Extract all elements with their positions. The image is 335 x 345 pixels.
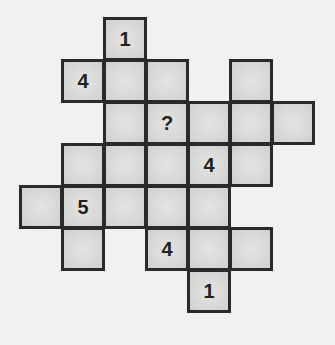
empty-cell[interactable] [103,185,147,229]
empty-cell[interactable] [187,101,231,145]
numbered-cell[interactable]: 4 [145,227,189,271]
empty-cell[interactable] [229,101,273,145]
empty-cell[interactable] [103,143,147,187]
empty-cell[interactable] [19,185,63,229]
numbered-cell[interactable]: 1 [103,17,147,61]
unknown-cell[interactable]: ? [145,101,189,145]
numbered-cell[interactable]: 1 [187,269,231,313]
numbered-cell[interactable]: 4 [187,143,231,187]
empty-cell[interactable] [103,59,147,103]
empty-cell[interactable] [145,59,189,103]
empty-cell[interactable] [229,143,273,187]
empty-cell[interactable] [187,185,231,229]
numbered-cell[interactable]: 5 [61,185,105,229]
empty-cell[interactable] [61,227,105,271]
empty-cell[interactable] [187,227,231,271]
empty-cell[interactable] [145,185,189,229]
empty-cell[interactable] [229,59,273,103]
empty-cell[interactable] [145,143,189,187]
numbered-cell[interactable]: 4 [61,59,105,103]
empty-cell[interactable] [61,143,105,187]
empty-cell[interactable] [229,227,273,271]
puzzle-grid: 14?4541 [20,18,314,312]
empty-cell[interactable] [271,101,315,145]
empty-cell[interactable] [103,101,147,145]
